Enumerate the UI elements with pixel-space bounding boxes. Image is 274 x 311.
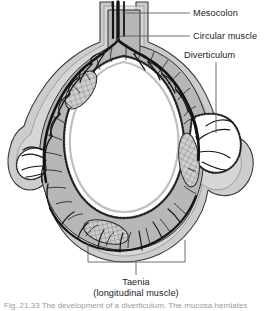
figure-caption: Fig. 21.33 The development of a divertic… — [4, 301, 247, 311]
colon-cross-section-illustration — [0, 0, 274, 311]
label-taenia: Taenia — [122, 277, 149, 288]
label-taenia-sub: (longitudinal muscle) — [93, 288, 178, 299]
diverticulum-figure: Mesocolon Circular muscle Diverticulum T… — [0, 0, 274, 311]
label-mesocolon: Mesocolon — [193, 8, 238, 19]
label-circular-muscle: Circular muscle — [193, 31, 257, 42]
label-diverticulum: Diverticulum — [184, 50, 235, 61]
